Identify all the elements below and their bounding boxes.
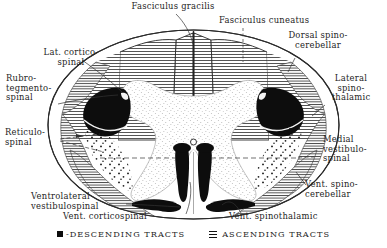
legend-descending-label: -DESCENDING TRACTS [66, 229, 185, 239]
vent-column-head-left [173, 143, 191, 153]
legend-item-ascending: ASCENDING TRACTS [209, 229, 330, 239]
legend: -DESCENDING TRACTS ASCENDING TRACTS [0, 229, 387, 239]
spinal-cord-cross-section-figure [0, 0, 387, 248]
solid-black-square-icon [57, 231, 63, 237]
horizontal-hatch-square-icon [209, 231, 217, 238]
vent-column-head-right [196, 143, 214, 153]
central-canal [191, 139, 197, 145]
legend-item-descending: -DESCENDING TRACTS [57, 229, 185, 239]
cord-body [48, 14, 339, 219]
legend-ascending-label: ASCENDING TRACTS [222, 229, 330, 239]
